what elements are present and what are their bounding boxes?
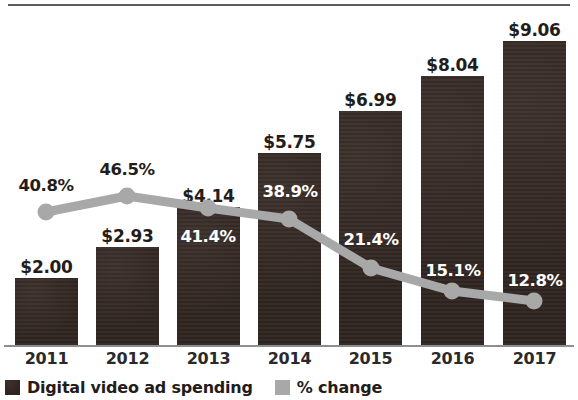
x-tick-2016: 2016 (416, 349, 489, 368)
legend-label-spending: Digital video ad spending (27, 378, 253, 397)
pct-label-2015: 21.4% (333, 230, 409, 249)
pct-label-2017: 12.8% (497, 271, 573, 290)
pct-label-2016: 15.1% (415, 261, 491, 280)
x-tick-2014: 2014 (253, 349, 326, 368)
chart-figure: $2.00 $2.93 $4.14 $5.75 $6.99 $8.04 $9.0… (0, 0, 578, 400)
bar-2016 (421, 76, 484, 345)
x-tick-2015: 2015 (334, 349, 407, 368)
chart-legend: Digital video ad spending % change (0, 375, 578, 400)
legend-swatch-spending-icon (5, 380, 20, 395)
line-marker-2011 (38, 204, 55, 221)
x-tick-2013: 2013 (172, 349, 245, 368)
pct-label-2011: 40.8% (8, 176, 84, 195)
legend-swatch-pct-change-icon (275, 380, 290, 395)
bar-value-label-2014: $5.75 (253, 132, 326, 152)
legend-item-spending: Digital video ad spending (5, 378, 253, 397)
legend-label-pct-change: % change (297, 378, 382, 397)
bar-2012 (96, 247, 159, 345)
x-tick-2012: 2012 (91, 349, 164, 368)
axis-baseline (4, 345, 574, 347)
pct-label-2012: 46.5% (89, 160, 165, 179)
bar-value-label-2011: $2.00 (10, 257, 83, 277)
bar-value-label-2013: $4.14 (172, 186, 245, 206)
bar-value-label-2015: $6.99 (334, 90, 407, 110)
bar-2017 (503, 41, 566, 345)
legend-item-pct-change: % change (275, 378, 382, 397)
bar-value-label-2012: $2.93 (91, 226, 164, 246)
pct-label-2013: 41.4% (170, 227, 246, 246)
bar-2015 (339, 111, 402, 345)
x-tick-2011: 2011 (10, 349, 83, 368)
line-marker-2012 (119, 188, 136, 205)
bar-2011 (15, 278, 78, 345)
bar-value-label-2016: $8.04 (416, 55, 489, 75)
bar-value-label-2017: $9.06 (498, 20, 571, 40)
pct-label-2014: 38.9% (252, 182, 328, 201)
x-tick-2017: 2017 (498, 349, 571, 368)
x-axis: 2011 2012 2013 2014 2015 2016 2017 (0, 349, 578, 373)
plot-area: $2.00 $2.93 $4.14 $5.75 $6.99 $8.04 $9.0… (0, 0, 578, 348)
